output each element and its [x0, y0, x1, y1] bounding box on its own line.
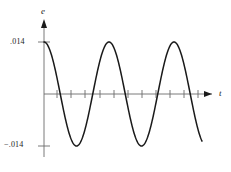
y-tick-label-negative: −.014 [4, 141, 24, 149]
y-axis-label: e [41, 7, 45, 16]
x-axis-label: t [219, 89, 222, 98]
plot-canvas [0, 0, 231, 172]
x-axis-arrow-icon [204, 91, 212, 97]
figure-container: e t .014 −.014 [0, 0, 231, 172]
y-axis-arrow-icon [41, 19, 47, 28]
y-tick-label-positive: .014 [10, 38, 25, 46]
